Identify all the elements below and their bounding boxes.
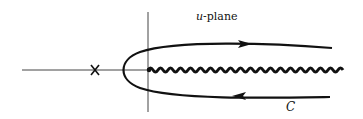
u-plane-diagram xyxy=(0,0,363,119)
plane-label: u-plane xyxy=(196,10,238,23)
branch-cut-wavy-line xyxy=(148,68,343,72)
plane-suffix: -plane xyxy=(203,10,237,23)
arrow-left-icon xyxy=(232,92,246,100)
contour-label: C xyxy=(286,100,295,114)
branch-point xyxy=(147,68,151,72)
